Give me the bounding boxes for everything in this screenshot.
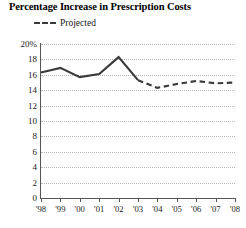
- series-line-actual: [41, 57, 138, 80]
- series-line-projected: [138, 80, 235, 88]
- series-lines: [0, 0, 246, 228]
- chart-figure: Percentage Increase in Prescription Cost…: [0, 0, 246, 228]
